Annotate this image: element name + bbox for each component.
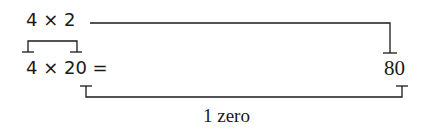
top-expression: 4 × 2 [26, 11, 75, 29]
result-value: 80 [384, 58, 405, 79]
small-bracket [28, 41, 77, 52]
main-expression: 4 × 20 = [26, 59, 108, 77]
annotation-label: 1 zero [203, 106, 250, 125]
bottom-bracket [86, 86, 402, 97]
top-connector [90, 23, 390, 53]
